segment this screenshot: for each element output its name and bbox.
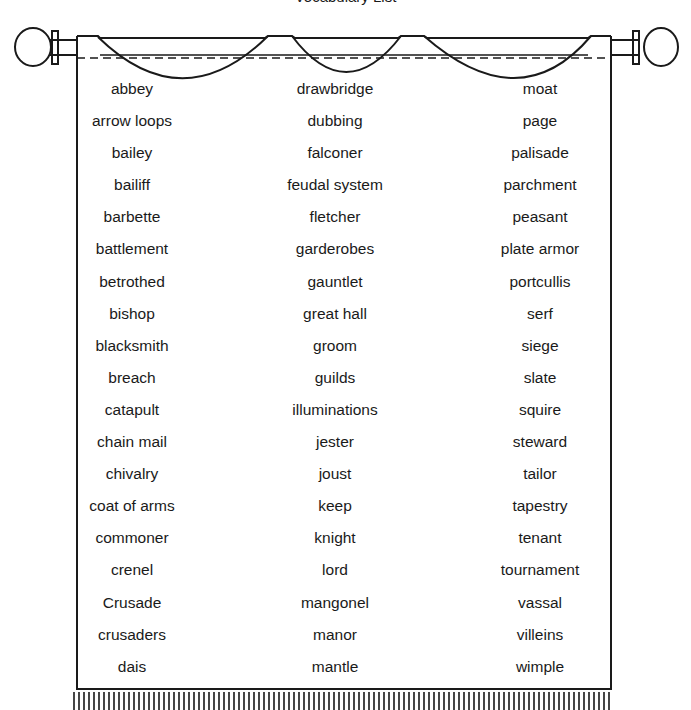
word-item: squire [440, 397, 640, 429]
word-item: barbette [32, 204, 232, 236]
word-item: bishop [32, 301, 232, 333]
rod-collar-right [633, 31, 639, 64]
word-item: tailor [440, 461, 640, 493]
word-item: serf [440, 301, 640, 333]
word-item: groom [235, 333, 435, 365]
word-item: Crusade [32, 590, 232, 622]
swag-2 [292, 36, 401, 72]
word-item: mangonel [235, 590, 435, 622]
word-item: battlement [32, 236, 232, 268]
word-item: steward [440, 429, 640, 461]
word-item: portcullis [440, 269, 640, 301]
word-item: palisade [440, 140, 640, 172]
word-item: catapult [32, 397, 232, 429]
word-item: crenel [32, 557, 232, 589]
word-item: fletcher [235, 204, 435, 236]
swag-3 [424, 36, 591, 78]
word-item: coat of arms [32, 493, 232, 525]
word-item: dais [32, 654, 232, 686]
word-item: joust [235, 461, 435, 493]
word-item: gauntlet [235, 269, 435, 301]
word-item: manor [235, 622, 435, 654]
word-item: illuminations [235, 397, 435, 429]
rod-knob-left [15, 28, 51, 66]
word-item: blacksmith [32, 333, 232, 365]
word-column-1: abbey arrow loops bailey bailiff barbett… [32, 76, 232, 686]
word-item: chivalry [32, 461, 232, 493]
word-item: parchment [440, 172, 640, 204]
word-item: page [440, 108, 640, 140]
word-column-2: drawbridge dubbing falconer feudal syste… [235, 76, 435, 686]
word-item: bailey [32, 140, 232, 172]
rod-knob-right [644, 28, 678, 66]
word-item: breach [32, 365, 232, 397]
word-item: drawbridge [235, 76, 435, 108]
rod-collar-left [52, 31, 58, 64]
word-item: commoner [32, 525, 232, 557]
word-column-3: moat page palisade parchment peasant pla… [440, 76, 640, 686]
word-item: siege [440, 333, 640, 365]
word-item: chain mail [32, 429, 232, 461]
word-item: crusaders [32, 622, 232, 654]
word-item: wimple [440, 654, 640, 686]
word-item: slate [440, 365, 640, 397]
word-item: betrothed [32, 269, 232, 301]
word-item: plate armor [440, 236, 640, 268]
page-title: Vocabulary List [0, 0, 691, 5]
word-item: lord [235, 557, 435, 589]
swag-1 [98, 36, 268, 78]
fringe [74, 692, 609, 710]
word-item: knight [235, 525, 435, 557]
word-item: villeins [440, 622, 640, 654]
word-item: moat [440, 76, 640, 108]
word-item: tenant [440, 525, 640, 557]
word-item: tournament [440, 557, 640, 589]
word-item: dubbing [235, 108, 435, 140]
word-item: great hall [235, 301, 435, 333]
word-item: falconer [235, 140, 435, 172]
word-item: guilds [235, 365, 435, 397]
word-item: keep [235, 493, 435, 525]
word-item: garderobes [235, 236, 435, 268]
word-item: vassal [440, 590, 640, 622]
word-item: arrow loops [32, 108, 232, 140]
word-item: jester [235, 429, 435, 461]
word-item: feudal system [235, 172, 435, 204]
word-item: tapestry [440, 493, 640, 525]
word-item: bailiff [32, 172, 232, 204]
word-item: peasant [440, 204, 640, 236]
word-item: abbey [32, 76, 232, 108]
word-item: mantle [235, 654, 435, 686]
